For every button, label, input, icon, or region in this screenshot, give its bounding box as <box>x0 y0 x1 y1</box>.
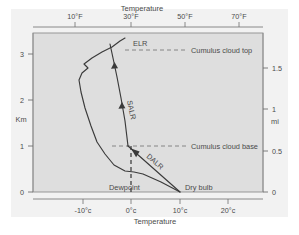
right-tick-label-1p5: 1.5 <box>272 64 282 73</box>
cumulus-cloud-top-label: Cumulus cloud top <box>191 46 252 55</box>
elr-label: ELR <box>133 39 147 48</box>
left-tick-label-1: 1 <box>20 142 24 151</box>
sounding-diagram-figure: 10°F 30°F 50°F 70°F Temperature -10°c 0°… <box>0 0 299 235</box>
top-axis-ticks <box>75 22 239 27</box>
bottom-axis-title: Temperature <box>134 217 177 226</box>
right-axis-unit: mi <box>271 117 279 126</box>
dry-bulb-label: Dry bulb <box>185 183 213 192</box>
left-axis-ticks <box>28 54 33 192</box>
bottom-axis-ticks <box>83 199 228 204</box>
left-axis-unit: Km <box>15 115 26 124</box>
top-axis-title: Temperature <box>121 4 164 13</box>
top-tick-label-70f: 70°F <box>231 12 247 21</box>
top-tick-label-50f: 50°F <box>177 12 193 21</box>
right-tick-label-0p5: 0.5 <box>272 147 282 156</box>
left-tick-label-0: 0 <box>20 188 24 197</box>
right-tick-label-1: 1 <box>272 105 276 114</box>
right-axis-ticks <box>263 68 268 192</box>
bottom-tick-label-minus10c: -10°c <box>75 206 92 215</box>
bottom-tick-label-20c: 20°c <box>221 206 236 215</box>
bottom-tick-label-10c: 10°c <box>173 206 188 215</box>
left-tick-label-2: 2 <box>20 96 24 105</box>
top-tick-label-10f: 10°F <box>67 12 83 21</box>
chart-canvas: 10°F 30°F 50°F 70°F Temperature -10°c 0°… <box>0 0 299 235</box>
top-tick-label-30f: 30°F <box>123 12 139 21</box>
bottom-tick-label-0c: 0°c <box>126 206 137 215</box>
left-tick-label-3: 3 <box>20 50 24 59</box>
right-tick-label-0: 0 <box>272 188 276 197</box>
dewpoint-label: Dewpoint <box>109 183 140 192</box>
plot-area <box>33 33 263 192</box>
cumulus-cloud-base-label: Cumulus cloud base <box>191 142 258 151</box>
